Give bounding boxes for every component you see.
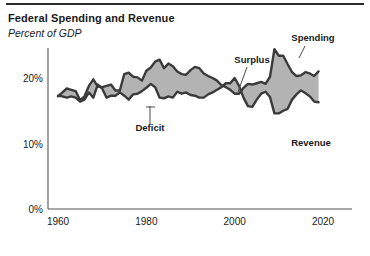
annotation-label-surplus: Surplus [234,54,269,65]
chart-figure: Federal Spending and Revenue Percent of … [0,0,370,256]
x-tick-label: 1980 [135,216,158,227]
y-tick-label: 0% [29,204,44,215]
annotation-leader-line [299,46,305,58]
x-tick-label: 2000 [224,216,247,227]
annotation-label-revenue: Revenue [291,137,331,148]
area-chart-plot: 0%10%20% 1960198020002020 SpendingRevenu… [0,0,370,256]
annotation-label-spending: Spending [291,32,334,43]
y-axis-tick-labels: 0%10%20% [23,73,43,215]
y-tick-label: 10% [23,139,43,150]
annotation-label-deficit: Deficit [135,122,165,133]
x-axis-tick-labels: 1960198020002020 [47,216,335,227]
x-tick-label: 1960 [47,216,70,227]
x-tick-label: 2020 [312,216,335,227]
spending-revenue-band [58,49,319,113]
y-tick-label: 20% [23,73,43,84]
